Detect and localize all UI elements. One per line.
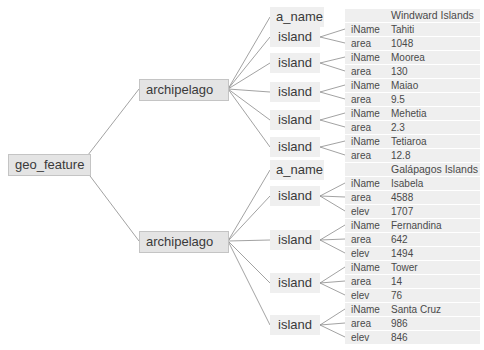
field-row: iNameIsabela <box>345 177 480 190</box>
field-value: 846 <box>391 331 408 344</box>
island-node[interactable]: island <box>270 137 320 157</box>
field-row: area1048 <box>345 37 480 50</box>
island-node[interactable]: island <box>270 230 320 250</box>
field-value: Moorea <box>391 51 425 64</box>
island-node[interactable]: island <box>270 273 320 293</box>
field-row: area12.8 <box>345 149 480 162</box>
field-key: iName <box>351 261 380 274</box>
field-value: 130 <box>391 65 408 78</box>
field-key: area <box>351 233 371 246</box>
field-value: 1048 <box>391 37 413 50</box>
field-value: 2.3 <box>391 121 405 134</box>
a-name-value: Windward Islands <box>391 9 474 22</box>
field-row: area14 <box>345 275 480 288</box>
field-row: iNameTower <box>345 261 480 274</box>
field-key: elev <box>351 289 369 302</box>
field-key: elev <box>351 247 369 260</box>
field-row: elev1494 <box>345 247 480 260</box>
field-key: area <box>351 121 371 134</box>
a-name-value-row: Galápagos Islands <box>345 163 480 176</box>
island-node[interactable]: island <box>270 110 320 130</box>
field-value: 1494 <box>391 247 413 260</box>
island-node[interactable]: island <box>270 186 320 206</box>
island-label: island <box>278 84 312 99</box>
field-key: iName <box>351 135 380 148</box>
field-row: area986 <box>345 317 480 330</box>
archipelago-label: archipelago <box>146 234 213 249</box>
root-label: geo_feature <box>15 157 84 172</box>
field-row: iNameTahiti <box>345 23 480 36</box>
field-value: 4588 <box>391 191 413 204</box>
field-row: iNameMoorea <box>345 51 480 64</box>
field-row: area4588 <box>345 191 480 204</box>
field-value: Santa Cruz <box>391 303 441 316</box>
field-key: elev <box>351 205 369 218</box>
field-value: Tahiti <box>391 23 414 36</box>
root-node-geo-feature[interactable]: geo_feature <box>8 154 91 176</box>
island-label: island <box>278 317 312 332</box>
island-label: island <box>278 29 312 44</box>
field-value: Mehetia <box>391 107 427 120</box>
field-row: iNameMehetia <box>345 107 480 120</box>
field-value: 986 <box>391 317 408 330</box>
a-name-node-2[interactable]: a_name <box>270 160 324 180</box>
field-row: area642 <box>345 233 480 246</box>
a-name-value: Galápagos Islands <box>391 163 478 176</box>
field-key: area <box>351 149 371 162</box>
island-label: island <box>278 232 312 247</box>
field-row: iNameSanta Cruz <box>345 303 480 316</box>
field-row: iNameFernandina <box>345 219 480 232</box>
field-key: area <box>351 65 371 78</box>
field-key: area <box>351 317 371 330</box>
field-row: area9.5 <box>345 93 480 106</box>
field-key: elev <box>351 331 369 344</box>
a-name-label: a_name <box>276 162 323 177</box>
field-key: area <box>351 37 371 50</box>
field-row: elev76 <box>345 289 480 302</box>
field-value: Maiao <box>391 79 418 92</box>
field-value: Fernandina <box>391 219 442 232</box>
field-key: iName <box>351 219 380 232</box>
island-label: island <box>278 275 312 290</box>
island-label: island <box>278 188 312 203</box>
field-value: Tetiaroa <box>391 135 427 148</box>
field-key: area <box>351 93 371 106</box>
island-node[interactable]: island <box>270 27 320 47</box>
archipelago-label: archipelago <box>146 82 213 97</box>
archipelago-node-1[interactable]: archipelago <box>139 79 229 101</box>
field-key: iName <box>351 177 380 190</box>
field-key: iName <box>351 107 380 120</box>
field-row: elev846 <box>345 331 480 344</box>
field-key: iName <box>351 51 380 64</box>
a-name-label: a_name <box>276 9 323 24</box>
field-value: 642 <box>391 233 408 246</box>
field-value: 14 <box>391 275 402 288</box>
a-name-node-1[interactable]: a_name <box>270 7 324 27</box>
field-key: area <box>351 275 371 288</box>
island-node[interactable]: island <box>270 82 320 102</box>
field-row: area2.3 <box>345 121 480 134</box>
field-row: area130 <box>345 65 480 78</box>
island-label: island <box>278 112 312 127</box>
field-key: iName <box>351 23 380 36</box>
field-value: 12.8 <box>391 149 410 162</box>
island-label: island <box>278 55 312 70</box>
field-row: iNameMaiao <box>345 79 480 92</box>
archipelago-node-2[interactable]: archipelago <box>139 231 229 253</box>
a-name-value-row: Windward Islands <box>345 9 480 22</box>
field-key: iName <box>351 79 380 92</box>
island-label: island <box>278 139 312 154</box>
field-value: 1707 <box>391 205 413 218</box>
island-node[interactable]: island <box>270 53 320 73</box>
island-node[interactable]: island <box>270 315 320 335</box>
field-value: 76 <box>391 289 402 302</box>
field-value: Isabela <box>391 177 423 190</box>
field-row: elev1707 <box>345 205 480 218</box>
field-key: area <box>351 191 371 204</box>
field-value: Tower <box>391 261 418 274</box>
field-row: iNameTetiaroa <box>345 135 480 148</box>
field-value: 9.5 <box>391 93 405 106</box>
field-key: iName <box>351 303 380 316</box>
